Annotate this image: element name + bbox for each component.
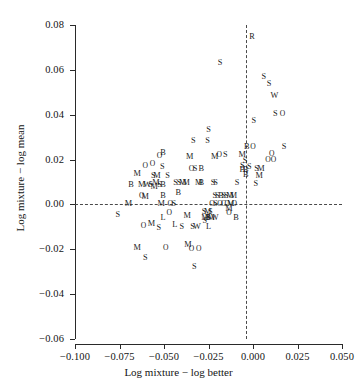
data-point-marker: M (183, 179, 190, 187)
data-point-marker: S (252, 117, 257, 125)
zero-vertical-reference-line (246, 25, 247, 339)
y-tick-label: −0.06 (20, 334, 64, 345)
data-point-marker: M (186, 153, 193, 161)
data-point-marker: S (171, 200, 176, 208)
data-point-marker: L (172, 220, 177, 228)
data-point-marker: S (235, 179, 240, 187)
data-point-marker: O (280, 109, 285, 117)
x-tick-mark (342, 344, 343, 349)
x-tick-mark (253, 344, 254, 349)
scatter-plot-figure: 0.080.060.040.020.00−0.02−0.04−0.06 −0.1… (0, 0, 357, 388)
y-tick-label: 0.06 (20, 65, 64, 76)
data-point-marker: B (160, 149, 166, 157)
x-tick-label: −0.100 (52, 352, 98, 363)
data-point-marker: S (218, 59, 223, 67)
data-point-marker: O (150, 160, 155, 168)
data-point-marker: B (243, 171, 249, 179)
data-point-marker: S (206, 126, 211, 134)
data-point-marker: B (233, 214, 239, 222)
x-axis-label: Log mixture − log better (0, 366, 357, 378)
y-tick-label: 0.04 (20, 110, 64, 121)
data-point-marker: S (213, 179, 218, 187)
data-point-marker: O (163, 244, 168, 252)
data-point-marker: O (167, 209, 172, 217)
x-tick-label: 0.000 (230, 352, 276, 363)
data-point-marker: S (273, 109, 278, 117)
data-point-marker: B (160, 181, 166, 189)
data-point-marker: O (141, 222, 146, 230)
data-point-marker: B (199, 164, 205, 172)
data-point-marker: M (125, 200, 132, 208)
x-tick-label: −0.075 (97, 352, 143, 363)
y-tick-mark (70, 249, 75, 250)
x-tick-label: −0.025 (186, 352, 232, 363)
x-tick-label: 0.025 (275, 352, 321, 363)
data-point-marker: O (269, 150, 274, 158)
data-point-marker: S (160, 163, 165, 171)
data-point-marker: S (223, 151, 228, 159)
x-tick-mark (164, 344, 165, 349)
data-point-marker: M (134, 170, 141, 178)
y-tick-mark (70, 294, 75, 295)
data-point-marker: M (148, 219, 155, 227)
data-point-marker: S (267, 80, 272, 88)
data-point-marker: O (216, 151, 221, 159)
data-point-marker: S (191, 136, 196, 144)
x-tick-label: −0.050 (141, 352, 187, 363)
y-tick-mark (70, 160, 75, 161)
data-point-marker: S (253, 180, 258, 188)
data-point-marker: M (142, 192, 149, 200)
y-tick-mark (70, 115, 75, 116)
x-tick-mark (75, 344, 76, 349)
y-axis-label: Log mixture − log mean (14, 23, 26, 333)
data-point-marker: W (211, 214, 219, 222)
data-point-marker: O (196, 245, 201, 253)
y-tick-label: 0.02 (20, 155, 64, 166)
data-point-marker: L (206, 223, 211, 231)
y-tick-label: 0.00 (20, 199, 64, 210)
y-axis-line (75, 25, 76, 339)
data-point-marker: B (128, 181, 134, 189)
y-tick-mark (70, 25, 75, 26)
data-point-marker: S (179, 223, 184, 231)
data-point-marker: S (282, 143, 287, 151)
x-tick-mark (298, 344, 299, 349)
data-point-marker: M (183, 211, 190, 219)
data-point-marker: S (143, 254, 148, 262)
data-point-marker: B (199, 179, 205, 187)
y-tick-label: −0.02 (20, 244, 64, 255)
data-point-marker: O (189, 245, 194, 253)
y-tick-mark (70, 204, 75, 205)
x-tick-label: 0.050 (319, 352, 357, 363)
data-point-marker: O (226, 209, 231, 217)
data-point-marker: R (249, 33, 255, 41)
data-point-marker: W (193, 223, 201, 231)
y-tick-mark (70, 339, 75, 340)
data-point-marker: W (270, 92, 278, 100)
data-point-marker: M (158, 200, 165, 208)
data-point-marker: O (143, 162, 148, 170)
data-point-marker: M (134, 244, 141, 252)
data-point-marker: O (250, 143, 255, 151)
data-point-marker: S (205, 136, 210, 144)
data-point-marker: S (261, 72, 266, 80)
data-point-marker: S (115, 210, 120, 218)
data-point-marker: S (193, 164, 198, 172)
y-tick-label: 0.08 (20, 20, 64, 31)
x-tick-mark (120, 344, 121, 349)
y-tick-label: −0.04 (20, 289, 64, 300)
data-point-marker: S (192, 263, 197, 271)
data-point-marker: B (175, 189, 181, 197)
y-tick-mark (70, 70, 75, 71)
data-point-marker: L (161, 214, 166, 222)
data-point-marker: S (156, 224, 161, 232)
x-tick-mark (209, 344, 210, 349)
